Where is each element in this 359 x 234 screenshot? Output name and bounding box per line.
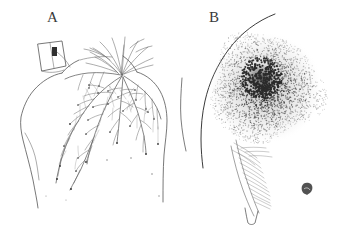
panel-a: A .ln { fill:none; stroke:#555; stroke-w… — [0, 0, 180, 234]
hatched-shading-fold — [231, 140, 271, 225]
upper-fold-hatching — [241, 147, 272, 157]
branch-twigs-6 — [78, 72, 104, 99]
torso-outline — [21, 56, 167, 208]
shoulder-rectangular-mark — [38, 41, 70, 72]
nape-hair-strands — [84, 37, 153, 75]
branch-twigs-5 — [131, 85, 158, 144]
figure-root: A .ln { fill:none; stroke:#555; stroke-w… — [0, 0, 359, 234]
panel-a-illustration: .ln { fill:none; stroke:#555; stroke-wid… — [0, 0, 180, 234]
branching-fern-pattern — [45, 72, 161, 201]
branch-twigs-2 — [85, 86, 113, 162]
satellite-mark — [302, 183, 313, 195]
panel-b: B .bln { fill:none; stroke:#3b3b3b; stro… — [179, 0, 359, 234]
panel-b-illustration: .bln { fill:none; stroke:#3b3b3b; stroke… — [179, 0, 359, 234]
branch-twigs-4 — [118, 90, 152, 152]
